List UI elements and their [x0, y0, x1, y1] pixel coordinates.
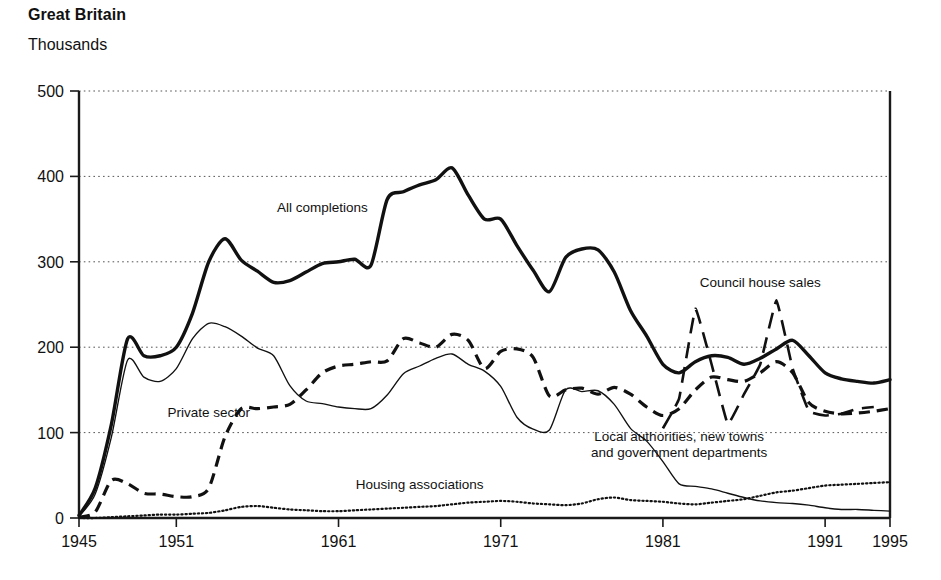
- axes-group: [79, 91, 890, 518]
- y-tick-label: 500: [37, 83, 64, 100]
- series-line: [79, 334, 890, 517]
- series-line: [79, 168, 890, 516]
- x-tick-label: 1971: [483, 533, 519, 550]
- x-tick-label: 1995: [872, 533, 908, 550]
- series-annotation-label: Local authorities, new towns: [594, 429, 764, 444]
- series-line: [663, 300, 874, 428]
- y-tick-label: 300: [37, 254, 64, 271]
- series-annotations-group: All completionsPrivate sectorCouncil hou…: [167, 200, 820, 492]
- gridlines-group: [79, 91, 890, 518]
- y-tick-label: 200: [37, 339, 64, 356]
- x-tick-label: 1961: [321, 533, 357, 550]
- x-tick-label: 1945: [61, 533, 97, 550]
- x-tick-labels-group: 1945195119611971198119911995: [61, 533, 908, 550]
- y-tick-label: 400: [37, 168, 64, 185]
- series-annotation-label: Private sector: [167, 405, 250, 420]
- series-annotation-label: and government departments: [591, 445, 768, 460]
- line-chart-plot: 0100200300400500 19451951196119711981199…: [0, 0, 941, 580]
- y-tick-labels-group: 0100200300400500: [37, 83, 64, 527]
- series-line: [79, 482, 890, 518]
- chart-figure: Great Britain Thousands 0100200300400500…: [0, 0, 941, 580]
- series-lines-group: [79, 168, 890, 518]
- x-tick-label: 1981: [645, 533, 681, 550]
- y-tick-label: 0: [55, 510, 64, 527]
- y-tick-label: 100: [37, 425, 64, 442]
- series-annotation-label: Housing associations: [356, 477, 484, 492]
- x-tick-label: 1991: [807, 533, 843, 550]
- x-tick-label: 1951: [159, 533, 195, 550]
- series-annotation-label: Council house sales: [700, 275, 821, 290]
- series-annotation-label: All completions: [277, 200, 368, 215]
